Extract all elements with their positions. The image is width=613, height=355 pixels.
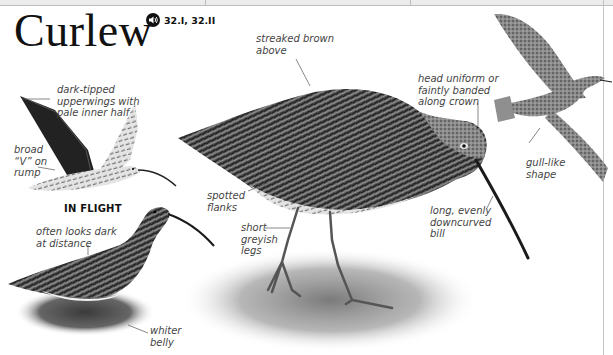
annotation-rump: broad “V” on rump — [14, 144, 47, 179]
annotation-spotted-flanks: spotted flanks — [207, 190, 245, 213]
annotation-gull-like-shape: gull-like shape — [526, 157, 565, 180]
annotation-streaked-brown: streaked brown above — [256, 33, 334, 56]
audio-track-reference: 32.I, 32.II — [164, 15, 215, 26]
annotation-head-crown: head uniform or faintly banded along cro… — [418, 73, 499, 108]
annotation-dark-at-distance: often looks dark at distance — [36, 226, 117, 249]
annotation-downcurved-bill: long, evenly downcurved bill — [430, 205, 491, 240]
audio-reference[interactable]: 32.I, 32.II — [146, 13, 215, 27]
wading-bird-illustration — [8, 207, 214, 301]
ground-shadow — [180, 248, 480, 352]
annotation-whiter-belly: whiter belly — [150, 325, 181, 348]
annotation-upperwings: dark-tipped upperwings with pale inner h… — [57, 84, 140, 119]
in-flight-caption: IN FLIGHT — [64, 203, 122, 214]
speaker-icon[interactable] — [146, 13, 160, 27]
page-title: Curlew — [14, 8, 152, 54]
annotation-short-greyish-legs: short greyish legs — [241, 222, 278, 257]
